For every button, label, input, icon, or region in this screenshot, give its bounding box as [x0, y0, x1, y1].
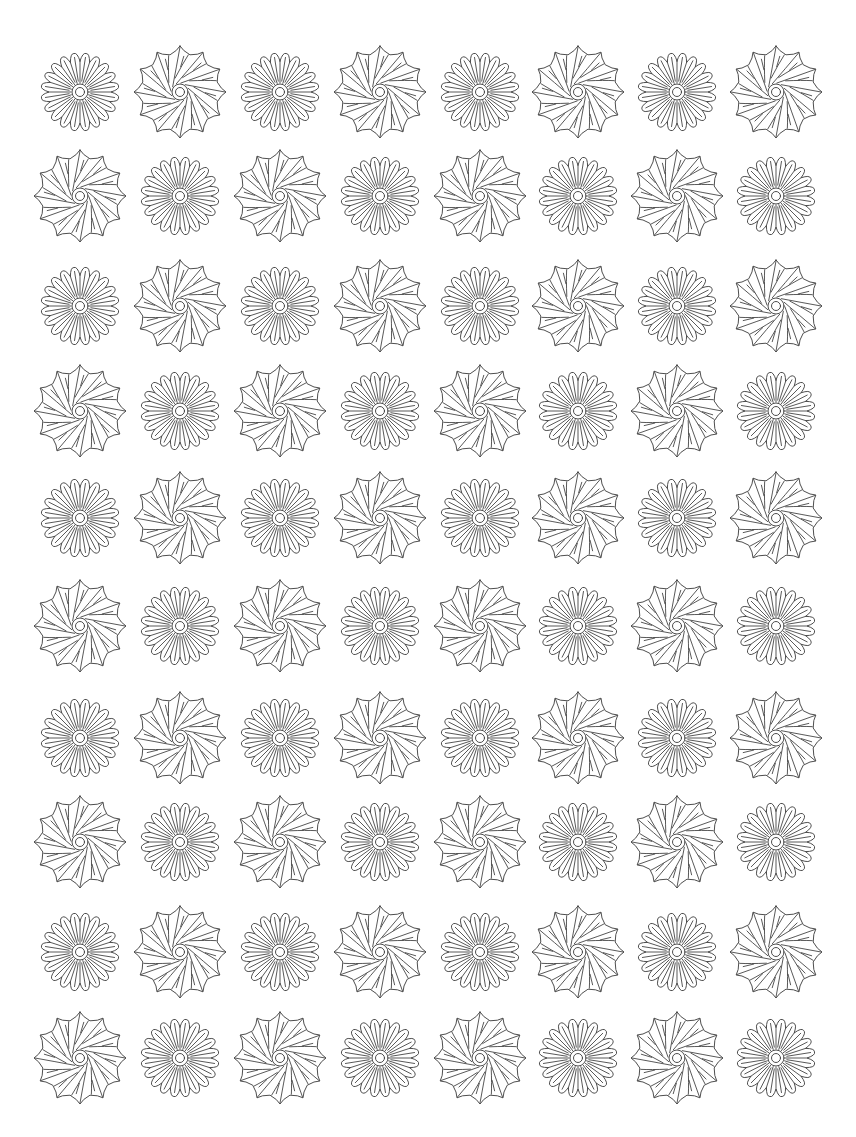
radial-flower-icon [41, 479, 118, 556]
flower-layer [34, 46, 822, 1104]
radial-flower-icon [241, 699, 318, 776]
radial-flower-icon [341, 587, 418, 664]
swirl-flower-icon [532, 260, 624, 352]
swirl-flower-icon [234, 365, 326, 457]
radial-flower-icon [141, 1019, 218, 1096]
swirl-flower-icon [532, 46, 624, 138]
radial-flower-icon [638, 479, 715, 556]
swirl-flower-icon [730, 46, 822, 138]
swirl-flower-icon [730, 472, 822, 564]
swirl-flower-icon [134, 692, 226, 784]
radial-flower-icon [441, 913, 518, 990]
radial-flower-icon [539, 372, 616, 449]
swirl-flower-icon [631, 1012, 723, 1104]
swirl-flower-icon [434, 1012, 526, 1104]
swirl-flower-icon [234, 796, 326, 888]
radial-flower-icon [638, 699, 715, 776]
swirl-flower-icon [434, 365, 526, 457]
swirl-flower-icon [134, 46, 226, 138]
swirl-flower-icon [434, 580, 526, 672]
swirl-flower-icon [234, 150, 326, 242]
swirl-flower-icon [34, 1012, 126, 1104]
radial-flower-icon [441, 267, 518, 344]
swirl-flower-icon [234, 1012, 326, 1104]
radial-flower-icon [737, 372, 814, 449]
flower-grid [0, 0, 856, 1137]
radial-flower-icon [441, 699, 518, 776]
radial-flower-icon [441, 479, 518, 556]
radial-flower-icon [539, 587, 616, 664]
swirl-flower-icon [134, 472, 226, 564]
radial-flower-icon [41, 699, 118, 776]
radial-flower-icon [241, 267, 318, 344]
radial-flower-icon [241, 53, 318, 130]
radial-flower-icon [737, 157, 814, 234]
swirl-flower-icon [334, 260, 426, 352]
swirl-flower-icon [34, 365, 126, 457]
swirl-flower-icon [532, 692, 624, 784]
radial-flower-icon [737, 803, 814, 880]
swirl-flower-icon [730, 906, 822, 998]
swirl-flower-icon [730, 260, 822, 352]
swirl-flower-icon [631, 796, 723, 888]
radial-flower-icon [539, 803, 616, 880]
swirl-flower-icon [434, 796, 526, 888]
swirl-flower-icon [434, 150, 526, 242]
swirl-flower-icon [334, 906, 426, 998]
radial-flower-icon [341, 372, 418, 449]
radial-flower-icon [141, 372, 218, 449]
swirl-flower-icon [532, 906, 624, 998]
radial-flower-icon [737, 1019, 814, 1096]
radial-flower-icon [638, 913, 715, 990]
radial-flower-icon [41, 913, 118, 990]
radial-flower-icon [241, 479, 318, 556]
radial-flower-icon [141, 157, 218, 234]
swirl-flower-icon [334, 472, 426, 564]
swirl-flower-icon [334, 46, 426, 138]
radial-flower-icon [539, 1019, 616, 1096]
radial-flower-icon [141, 803, 218, 880]
swirl-flower-icon [631, 150, 723, 242]
swirl-flower-icon [34, 796, 126, 888]
swirl-flower-icon [730, 692, 822, 784]
radial-flower-icon [341, 803, 418, 880]
radial-flower-icon [241, 913, 318, 990]
swirl-flower-icon [532, 472, 624, 564]
swirl-flower-icon [134, 260, 226, 352]
swirl-flower-icon [631, 580, 723, 672]
swirl-flower-icon [34, 150, 126, 242]
swirl-flower-icon [631, 365, 723, 457]
radial-flower-icon [41, 267, 118, 344]
swirl-flower-icon [334, 692, 426, 784]
radial-flower-icon [441, 53, 518, 130]
radial-flower-icon [141, 587, 218, 664]
radial-flower-icon [638, 267, 715, 344]
radial-flower-icon [638, 53, 715, 130]
radial-flower-icon [341, 157, 418, 234]
coloring-page: Flower pattern coloring page [0, 0, 856, 1137]
swirl-flower-icon [234, 580, 326, 672]
radial-flower-icon [41, 53, 118, 130]
swirl-flower-icon [34, 580, 126, 672]
swirl-flower-icon [134, 906, 226, 998]
radial-flower-icon [737, 587, 814, 664]
radial-flower-icon [341, 1019, 418, 1096]
radial-flower-icon [539, 157, 616, 234]
